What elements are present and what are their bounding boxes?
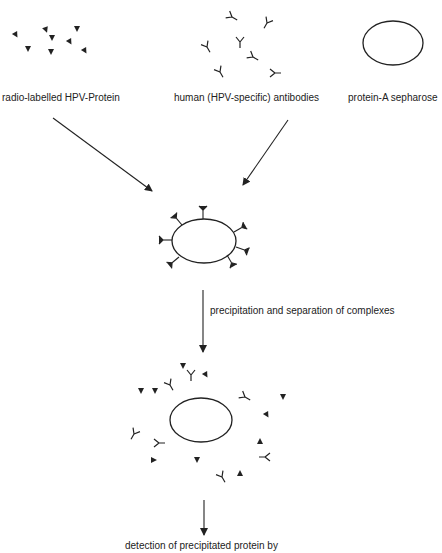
sepharose-bead-icon — [363, 21, 423, 65]
bound-complex-icon — [159, 206, 250, 268]
label-protein: radio-labelled HPV-Protein — [2, 92, 120, 103]
label-antibodies: human (HPV-specific) antibodies — [174, 92, 319, 103]
protein-cluster-icon — [12, 26, 89, 55]
antibody-cluster-icon — [201, 11, 281, 79]
label-sepharose: protein-A sepharose — [348, 92, 438, 103]
label-precipitation: precipitation and separation of complexe… — [210, 305, 395, 316]
arrow-antibodies-to-complex — [243, 120, 288, 185]
label-detection: detection of precipitated protein by — [125, 540, 278, 551]
separated-result-icon — [128, 363, 286, 484]
arrow-protein-to-complex — [53, 118, 152, 191]
